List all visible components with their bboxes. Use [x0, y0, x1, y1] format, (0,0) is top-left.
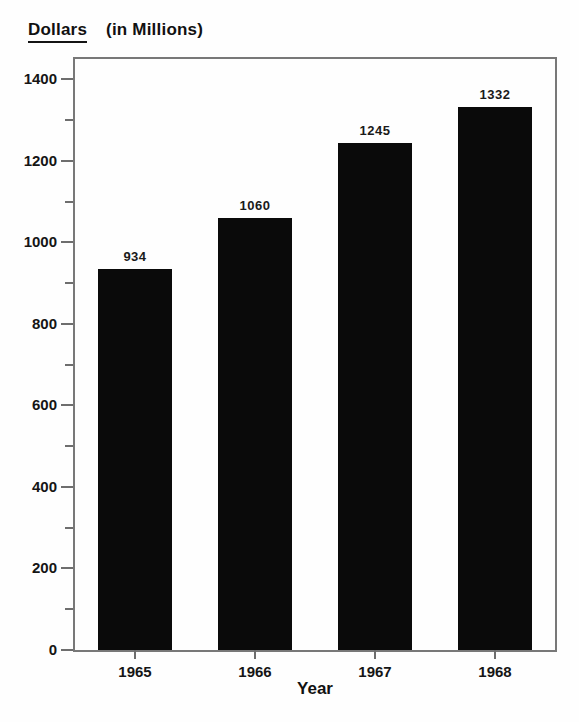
y-axis-title-word: Dollars	[28, 20, 87, 43]
y-tick	[61, 241, 73, 243]
y-tick-label: 1200	[5, 152, 57, 170]
bar	[218, 218, 292, 650]
bar-value-label: 1060	[218, 198, 292, 213]
y-tick-label: 800	[5, 315, 57, 333]
x-tick-label: 1965	[95, 663, 175, 680]
y-axis-title-units: (in Millions)	[106, 20, 203, 40]
y-minor-tick	[65, 201, 73, 203]
y-tick	[61, 649, 73, 651]
y-tick	[61, 78, 73, 80]
y-minor-tick	[65, 282, 73, 284]
y-minor-tick	[65, 364, 73, 366]
y-tick	[61, 486, 73, 488]
y-tick-label: 400	[5, 478, 57, 496]
x-tick	[374, 650, 376, 659]
x-tick	[494, 650, 496, 659]
bar	[458, 107, 532, 650]
scanned-bar-chart-figure: Dollars (in Millions) Year 0200400600800…	[0, 0, 579, 722]
x-axis-title: Year	[297, 679, 333, 699]
chart-title: Dollars (in Millions)	[28, 20, 203, 43]
x-tick-label: 1968	[455, 663, 535, 680]
y-tick	[61, 567, 73, 569]
y-tick-label: 200	[5, 559, 57, 577]
x-tick-label: 1967	[335, 663, 415, 680]
y-tick	[61, 160, 73, 162]
y-minor-tick	[65, 445, 73, 447]
plot-area: Year 02004006008001000120014009341965106…	[73, 57, 557, 652]
x-tick	[254, 650, 256, 659]
y-tick-label: 0	[5, 641, 57, 659]
y-tick-label: 1400	[5, 70, 57, 88]
bar-value-label: 1332	[458, 87, 532, 102]
bar-value-label: 1245	[338, 123, 412, 138]
y-minor-tick	[65, 119, 73, 121]
y-tick-label: 600	[5, 396, 57, 414]
bar-value-label: 934	[98, 249, 172, 264]
y-tick	[61, 323, 73, 325]
y-minor-tick	[65, 608, 73, 610]
x-tick-label: 1966	[215, 663, 295, 680]
y-tick	[61, 404, 73, 406]
y-tick-label: 1000	[5, 233, 57, 251]
bar	[338, 143, 412, 650]
x-tick	[134, 650, 136, 659]
bar	[98, 269, 172, 650]
y-minor-tick	[65, 527, 73, 529]
